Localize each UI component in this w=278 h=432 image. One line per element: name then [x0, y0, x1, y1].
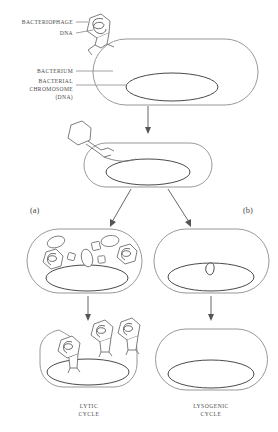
bacteriophage-cycle-diagram: BACTERIOPHAGE DNA BACTERIUM BACTERIAL CH…: [0, 0, 278, 432]
stage-lysogenic-integration: [154, 229, 269, 293]
arrow-replication-to-lysis: [85, 296, 91, 321]
stage-lysogenic-division: [156, 329, 268, 390]
chromosome-icon: [47, 359, 129, 385]
arrow-to-lysogenic-branch: [168, 189, 191, 227]
stage-injection: [68, 121, 212, 187]
stage-lysis: [40, 318, 140, 387]
label-bacterial-chromosome-line1: BACTERIAL: [38, 78, 73, 84]
chromosome-icon: [46, 265, 128, 291]
branch-label-a: (a): [30, 206, 40, 215]
label-dna: DNA: [60, 30, 73, 36]
branch-label-b: (b): [243, 206, 253, 215]
chromosome-icon: [126, 73, 218, 101]
lytic-cycle-label-line1: LYTIC: [80, 403, 98, 409]
stage-attachment: BACTERIOPHAGE DNA BACTERIUM BACTERIAL CH…: [22, 14, 258, 105]
label-bacterial-chromosome-line2: CHROMOSOME: [29, 86, 73, 92]
chromosome-icon: [106, 159, 190, 185]
bacteriophage-icon-empty: [68, 121, 91, 145]
phage-tail-part: [67, 252, 75, 260]
lytic-cycle-label-line2: CYCLE: [79, 411, 100, 417]
arrow-to-lytic-branch: [110, 189, 131, 227]
phage-leg-left: [88, 45, 95, 55]
lysogenic-cycle-label-line2: CYCLE: [201, 411, 222, 417]
phage-tail-part: [98, 256, 106, 264]
prophage-loop-icon: [206, 263, 214, 275]
stage-lytic-replication: [27, 229, 142, 293]
label-bacterium: BACTERIUM: [37, 68, 73, 74]
label-bacteriophage: BACTERIOPHAGE: [22, 19, 73, 25]
label-bacterial-chromosome-line3: (DNA): [55, 94, 73, 101]
arrow-lysogenic-to-division: [208, 296, 214, 321]
arrow-attachment-to-injection: [145, 106, 151, 134]
phage-tail-part: [91, 241, 100, 250]
chromosome-icon: [168, 360, 254, 388]
lysogenic-cycle-label-line1: LYSOGENIC: [193, 403, 229, 409]
